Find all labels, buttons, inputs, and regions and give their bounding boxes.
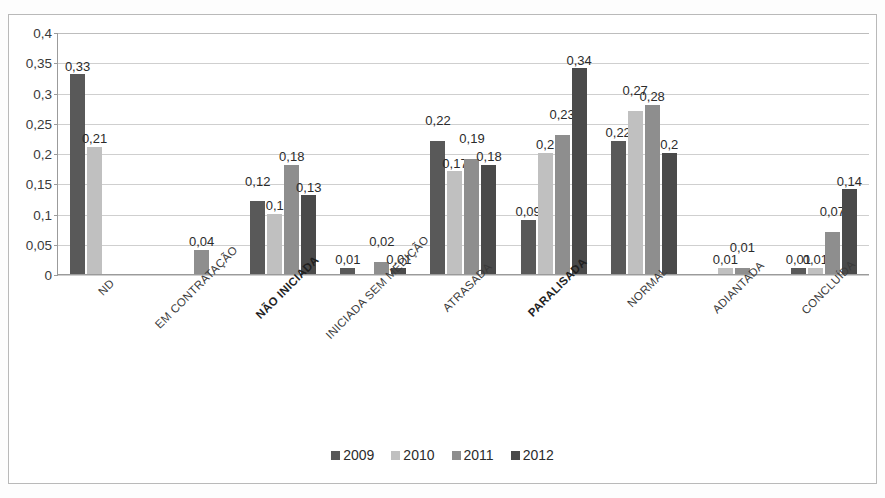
bar-slot	[121, 33, 136, 274]
bar[interactable]: 0,34	[572, 68, 587, 274]
x-category: EM CONTRATAÇÃO	[147, 277, 237, 397]
bar-slot: 0,1	[267, 33, 282, 274]
bar-slot: 0,18	[481, 33, 496, 274]
legend-swatch	[391, 451, 400, 460]
legend-item[interactable]: 2010	[391, 447, 434, 463]
bar-value-label: 0,13	[296, 181, 321, 195]
legend-label: 2011	[464, 447, 494, 463]
bar-value-label: 0,2	[536, 138, 554, 152]
bar-slot: 0,01	[735, 33, 750, 274]
x-category: CONCLUÍDA	[779, 277, 869, 397]
bar-group: 0,090,20,230,34	[509, 33, 599, 274]
y-tick-label: 0,1	[8, 207, 52, 222]
bar-value-label: 0,34	[566, 54, 591, 68]
bar-group: 0,220,270,280,2	[599, 33, 689, 274]
bar-value-label: 0,1	[266, 199, 284, 213]
bar-slot: 0,01	[808, 33, 823, 274]
bar-group: 0,010,010,070,14	[779, 33, 869, 274]
bar-slot: 0,23	[555, 33, 570, 274]
bar[interactable]: 0,01	[808, 268, 823, 274]
y-tick-mark	[54, 275, 58, 276]
bar-slot: 0,01	[718, 33, 733, 274]
bar-slot: 0,18	[284, 33, 299, 274]
x-category: ADIANTADA	[689, 277, 779, 397]
x-category: ATRASADA	[418, 277, 508, 397]
bar-slot	[104, 33, 119, 274]
bar[interactable]: 0,27	[628, 111, 643, 274]
bar[interactable]: 0,01	[718, 268, 733, 274]
bar-slot: 0,19	[464, 33, 479, 274]
bar-slot: 0,27	[628, 33, 643, 274]
bar[interactable]: 0,21	[87, 147, 102, 274]
legend-item[interactable]: 2011	[452, 447, 494, 463]
x-category: NORMAL	[598, 277, 688, 397]
bar-slot	[357, 33, 372, 274]
bar-slot	[211, 33, 226, 274]
bar-group: 0,04	[148, 33, 238, 274]
bar-slot: 0,21	[87, 33, 102, 274]
plot-canvas: 0,330,210,040,120,10,180,130,010,020,010…	[57, 33, 869, 275]
bar-slot	[177, 33, 192, 274]
bar[interactable]: 0,19	[464, 159, 479, 274]
bar-group: 0,220,170,190,18	[418, 33, 508, 274]
bar[interactable]: 0,1	[267, 214, 282, 275]
bar[interactable]: 0,18	[481, 165, 496, 274]
bar[interactable]: 0,2	[538, 153, 553, 274]
bar-slot: 0,02	[374, 33, 389, 274]
legend-swatch	[511, 451, 520, 460]
bar-slot: 0,12	[250, 33, 265, 274]
bar-group: 0,120,10,180,13	[238, 33, 328, 274]
x-category: ND	[57, 277, 147, 397]
bar[interactable]: 0,2	[662, 153, 677, 274]
legend-label: 2012	[523, 447, 554, 463]
legend-label: 2010	[403, 447, 434, 463]
bar[interactable]: 0,22	[611, 141, 626, 274]
y-tick-label: 0,4	[8, 26, 52, 41]
bar-slot: 0,22	[611, 33, 626, 274]
bar[interactable]: 0,33	[70, 74, 85, 274]
bar[interactable]: 0,17	[447, 171, 462, 274]
chart-frame: 0,330,210,040,120,10,180,130,010,020,010…	[8, 14, 877, 484]
bar-slot: 0,01	[391, 33, 406, 274]
bar-value-label: 0,2	[660, 138, 678, 152]
legend-item[interactable]: 2012	[511, 447, 554, 463]
bar-slot	[701, 33, 716, 274]
bar-slot: 0,07	[825, 33, 840, 274]
bar-slot: 0,33	[70, 33, 85, 274]
y-tick-label: 0,05	[8, 237, 52, 252]
y-tick-label: 0,2	[8, 147, 52, 162]
y-tick-label: 0	[8, 268, 52, 283]
y-tick-label: 0,3	[8, 86, 52, 101]
x-axis-categories: NDEM CONTRATAÇÃONÃO INICIADAINICIADA SEM…	[57, 277, 869, 397]
bar-value-label: 0,14	[837, 175, 862, 189]
bar-slot: 0,17	[447, 33, 462, 274]
y-tick-label: 0,15	[8, 177, 52, 192]
legend-item[interactable]: 2009	[331, 447, 374, 463]
bar-slot: 0,01	[340, 33, 355, 274]
bar-slot: 0,13	[301, 33, 316, 274]
bar-slot: 0,2	[662, 33, 677, 274]
bar[interactable]: 0,22	[430, 141, 445, 274]
bar-slot: 0,04	[194, 33, 209, 274]
legend-swatch	[452, 451, 461, 460]
bar[interactable]: 0,01	[340, 268, 355, 274]
y-tick-label: 0,25	[8, 116, 52, 131]
bar-slot: 0,14	[842, 33, 857, 274]
bar-slot: 0,01	[791, 33, 806, 274]
bar[interactable]: 0,18	[284, 165, 299, 274]
bar-group: 0,330,21	[58, 33, 148, 274]
chart-legend: 2009201020112012	[9, 447, 876, 463]
bar[interactable]: 0,28	[645, 105, 660, 274]
y-tick-label: 0,35	[8, 56, 52, 71]
bar-slot: 0,09	[521, 33, 536, 274]
bar[interactable]: 0,23	[555, 135, 570, 274]
legend-swatch	[331, 451, 340, 460]
bar[interactable]: 0,09	[521, 220, 536, 274]
bar-slot	[752, 33, 767, 274]
bar-value-label: 0,18	[476, 150, 501, 164]
bar-slot: 0,28	[645, 33, 660, 274]
bar-groups: 0,330,210,040,120,10,180,130,010,020,010…	[58, 33, 869, 274]
bar[interactable]: 0,12	[250, 201, 265, 274]
bar[interactable]: 0,01	[791, 268, 806, 274]
x-category: PARALISADA	[508, 277, 598, 397]
